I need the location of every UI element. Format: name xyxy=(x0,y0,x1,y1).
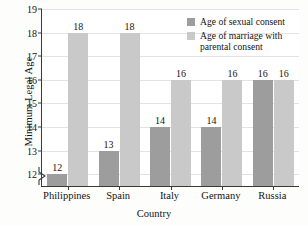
x-category-label: Germany xyxy=(201,190,240,201)
bar-value-label: 12 xyxy=(52,162,62,173)
x-category-label: Philippines xyxy=(43,190,90,201)
bar-group: 1218 xyxy=(47,9,88,186)
bar-value-label: 16 xyxy=(227,68,237,79)
legend-swatch-icon xyxy=(187,18,195,26)
legend-label: Age of marriage withparental consent xyxy=(200,30,282,52)
legend-item[interactable]: Age of sexual consent xyxy=(187,16,299,27)
x-category-label: Russia xyxy=(258,190,286,201)
y-tick-label: 14 xyxy=(27,122,42,133)
bar[interactable] xyxy=(68,33,88,186)
bar-value-label: 16 xyxy=(279,68,289,79)
bar-group: 1416 xyxy=(150,9,191,186)
x-axis-title: Country xyxy=(0,208,308,219)
bar[interactable] xyxy=(274,80,294,186)
bar-value-label: 13 xyxy=(104,139,114,150)
bar-value-label: 14 xyxy=(155,115,165,126)
y-tick-label: 18 xyxy=(27,27,42,38)
bar[interactable] xyxy=(120,33,140,186)
y-tick-label: 16 xyxy=(27,74,42,85)
bar[interactable] xyxy=(201,127,221,186)
bar-value-label: 16 xyxy=(176,68,186,79)
legend-label: Age of sexual consent xyxy=(200,16,285,27)
x-category-label: Italy xyxy=(160,190,179,201)
y-tick-label: 13 xyxy=(27,145,42,156)
bar[interactable] xyxy=(47,174,67,186)
y-tick-label: 19 xyxy=(27,4,42,15)
bar-chart: Minimum Legal Age 1213141516171819 12181… xyxy=(0,0,308,226)
chart-legend: Age of sexual consentAge of marriage wit… xyxy=(187,16,299,55)
bar-value-label: 16 xyxy=(258,68,268,79)
bar-value-label: 14 xyxy=(206,115,216,126)
bar-value-label: 18 xyxy=(73,21,83,32)
legend-item[interactable]: Age of marriage withparental consent xyxy=(187,30,299,52)
y-tick-label: 17 xyxy=(27,51,42,62)
bar[interactable] xyxy=(171,80,191,186)
bar[interactable] xyxy=(253,80,273,186)
plot-area: 1213141516171819 12181318141614161616 Ag… xyxy=(41,9,299,187)
bar-group: 1318 xyxy=(99,9,140,186)
bar-value-label: 18 xyxy=(125,21,135,32)
legend-swatch-icon xyxy=(187,32,195,40)
y-tick-label: 15 xyxy=(27,98,42,109)
bar[interactable] xyxy=(99,151,119,186)
bar[interactable] xyxy=(150,127,170,186)
x-category-label: Spain xyxy=(106,190,130,201)
bar[interactable] xyxy=(222,80,242,186)
